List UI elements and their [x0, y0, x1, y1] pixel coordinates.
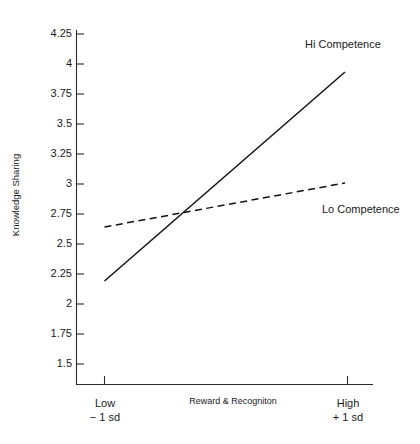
y-tick-label: 3.5	[57, 118, 72, 129]
x-tick-label-low-sub: − 1 sd	[64, 410, 146, 424]
series-label-lo-competence: Lo Competence	[322, 203, 400, 215]
y-tick-label: 3.75	[51, 88, 72, 99]
y-tick-label: 2.25	[51, 268, 72, 279]
x-tick-label-low: Low − 1 sd	[64, 396, 146, 424]
y-tick-label: 2.5	[57, 238, 72, 249]
x-tick-label-high-main: High	[307, 396, 389, 410]
series-line-lo-competence	[105, 183, 346, 227]
x-axis-ticks	[105, 376, 348, 385]
y-tick-label: 2	[66, 298, 72, 309]
y-tick-label: 4.25	[51, 28, 72, 39]
y-tick-label: 3.25	[51, 148, 72, 159]
x-tick-label-high: High + 1 sd	[307, 396, 389, 424]
y-tick-label: 1.75	[51, 328, 72, 339]
y-axis-ticks	[77, 34, 85, 364]
y-tick-label: 2.75	[51, 208, 72, 219]
y-axis-title-text: Knowledge Sharing	[10, 154, 21, 236]
interaction-plot-figure: 4.25 4 3.75 3.5 3.25 3 2.75 2.5 2.25 2 1…	[0, 0, 420, 444]
y-tick-label: 4	[66, 58, 72, 69]
x-tick-label-high-sub: + 1 sd	[307, 410, 389, 424]
x-axis-title: Reward & Recogniton	[168, 396, 298, 406]
y-tick-label: 1.5	[57, 358, 72, 369]
x-tick-label-low-main: Low	[64, 396, 146, 410]
series-label-hi-competence: Hi Competence	[305, 38, 381, 50]
series-line-hi-competence	[105, 72, 346, 281]
y-axis-title: Knowledge Sharing	[6, 132, 24, 258]
y-tick-label: 3	[66, 178, 72, 189]
